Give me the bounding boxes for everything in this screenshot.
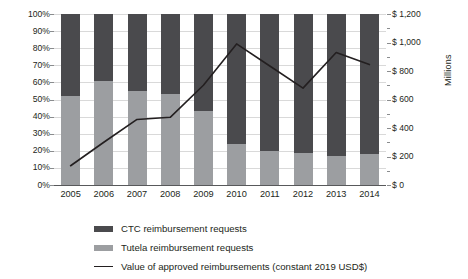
y-axis-right-tick <box>387 128 391 129</box>
plot-area <box>54 14 386 185</box>
y-axis-left-tick-label: 40% <box>33 112 50 121</box>
y-axis-left-tick-label: 20% <box>33 146 50 155</box>
y-axis-right-tick <box>387 100 391 101</box>
y-axis-left: 0%10%20%30%40%50%60%70%80%90%100% <box>8 0 50 279</box>
y-axis-right-tick-label: $ 200 <box>392 152 414 161</box>
y-axis-left-tick-label: 10% <box>33 163 50 172</box>
y-axis-left-tick-label: 50% <box>33 95 50 104</box>
y-axis-right-tick <box>387 185 391 186</box>
y-axis-left-tick-label: 60% <box>33 78 50 87</box>
legend-swatch-ctc-icon <box>94 226 113 232</box>
y-axis-right-tick <box>387 157 391 158</box>
chart-legend: CTC reimbursement requests Tutela reimbu… <box>94 219 424 276</box>
legend-item-ctc: CTC reimbursement requests <box>94 219 424 238</box>
legend-label-value-line: Value of approved reimbursements (consta… <box>121 262 367 272</box>
x-axis-baseline <box>54 185 386 186</box>
legend-swatch-tutela-icon <box>94 245 113 251</box>
chart-container: 0%10%20%30%40%50%60%70%80%90%100% $ 0$ 2… <box>0 0 468 279</box>
y-axis-right-tick <box>387 43 391 44</box>
y-axis-left-tick-label: 0% <box>38 181 50 190</box>
y-axis-right-tick-label: $ 800 <box>392 67 414 76</box>
y-axis-right-tick <box>387 14 391 15</box>
y-axis-right-minor-tick <box>387 142 390 143</box>
y-axis-left-tick-label: 70% <box>33 61 50 70</box>
y-axis-left-tick-label: 30% <box>33 129 50 138</box>
legend-swatch-line-icon <box>94 266 113 267</box>
legend-label-tutela: Tutela reimbursement requests <box>121 243 253 253</box>
y-axis-right-tick-label: $ 600 <box>392 95 414 104</box>
y-axis-right-tick-label: $ 400 <box>392 124 414 133</box>
y-axis-right-minor-tick <box>387 171 390 172</box>
y-axis-left-tick-label: 80% <box>33 44 50 53</box>
legend-item-value-line: Value of approved reimbursements (consta… <box>94 257 424 276</box>
value-line-path <box>71 44 370 166</box>
y-axis-left-tick-label: 100% <box>28 10 50 19</box>
y-axis-right-tick-label: $ 1,000 <box>392 38 421 47</box>
y-axis-right-tick-label: $ 1,200 <box>392 10 421 19</box>
y-axis-right-minor-tick <box>387 114 390 115</box>
x-axis: 2005200620072008200920102011201220132014 <box>54 190 386 204</box>
y-axis-right-minor-tick <box>387 85 390 86</box>
legend-item-tutela: Tutela reimbursement requests <box>94 238 424 257</box>
y-axis-left-tick-label: 90% <box>33 27 50 36</box>
line-series <box>54 14 386 185</box>
y-axis-right-minor-tick <box>387 57 390 58</box>
y-axis-right-tick-label: $ 0 <box>392 181 404 190</box>
y-axis-right-minor-tick <box>387 28 390 29</box>
y-axis-right-tick <box>387 71 391 72</box>
y-axis-right-title: Millions <box>443 54 453 86</box>
legend-label-ctc: CTC reimbursement requests <box>121 224 247 234</box>
x-axis-tick-label: 2014 <box>349 190 389 199</box>
